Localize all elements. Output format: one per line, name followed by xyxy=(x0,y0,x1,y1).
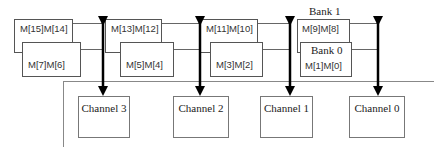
channel-arrows xyxy=(0,0,445,150)
